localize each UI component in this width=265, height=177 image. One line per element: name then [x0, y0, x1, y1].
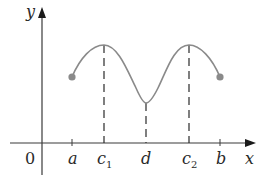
y-axis-label: y — [25, 2, 36, 21]
x-axis-arrow-icon — [245, 139, 256, 147]
endpoint-dot-a — [68, 73, 75, 80]
tick-label-a: a — [68, 149, 78, 168]
tick-label-d: d — [141, 149, 151, 168]
tick-label-c1: c1 — [97, 149, 112, 170]
endpoint-dot-b — [216, 73, 223, 80]
origin-label: 0 — [25, 149, 35, 168]
tick-label-c2: c2 — [182, 149, 197, 170]
y-axis-arrow-icon — [38, 7, 46, 18]
x-axis-label: x — [245, 149, 254, 168]
tick-label-b: b — [216, 149, 226, 168]
function-curve — [72, 45, 220, 103]
graph-canvas: y x 0 a c1 d c2 b — [0, 0, 265, 177]
